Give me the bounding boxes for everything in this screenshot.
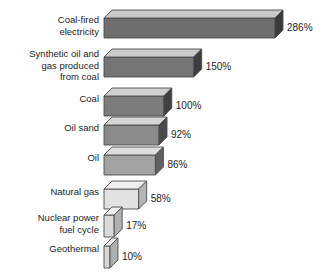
bar-top-face [104, 49, 202, 57]
bar-front-face [104, 246, 110, 268]
bar-3d [104, 49, 204, 79]
bar-front-face [104, 96, 164, 116]
bar-3d [104, 147, 165, 177]
bar-top-face [104, 117, 167, 125]
category-label: Coal-fired electricity [0, 14, 99, 37]
bar-3d [104, 238, 120, 270]
bar-top-face [104, 88, 172, 96]
value-label: 58% [151, 193, 171, 204]
bar-front-face [104, 18, 275, 38]
category-label: Nuclear power fuel cycle [0, 212, 99, 235]
bar-front-face [104, 57, 194, 77]
bar-3d [104, 117, 169, 147]
bar-chart: Coal-fired electricity286%Synthetic oil … [0, 0, 328, 274]
value-label: 10% [122, 251, 142, 262]
category-label: Oil [0, 152, 99, 164]
value-label: 17% [126, 220, 146, 231]
category-label: Natural gas [0, 186, 99, 198]
value-label: 286% [287, 22, 313, 33]
category-label: Synthetic oil and gas produced from coal [0, 48, 99, 83]
bar-front-face [104, 125, 159, 145]
bar-front-face [104, 215, 114, 237]
category-label: Oil sand [0, 122, 99, 134]
value-label: 92% [171, 129, 191, 140]
category-label: Coal [0, 93, 99, 105]
value-label: 100% [176, 100, 202, 111]
category-label: Geothermal [0, 243, 99, 255]
bar-front-face [104, 189, 139, 209]
bar-3d [104, 88, 174, 118]
bar-3d [104, 10, 285, 40]
bar-front-face [104, 155, 155, 175]
value-label: 150% [206, 61, 232, 72]
bar-3d [104, 207, 124, 239]
value-label: 86% [167, 159, 187, 170]
bar-top-face [104, 10, 283, 18]
bar-top-face [104, 147, 163, 155]
